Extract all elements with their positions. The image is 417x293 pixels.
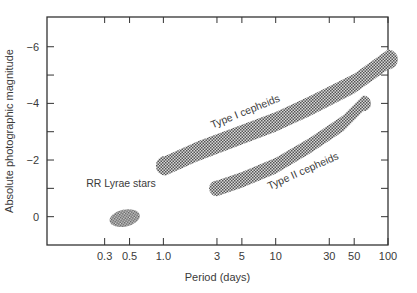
annotation-label: RR Lyrae stars [86,177,156,189]
chart-area: 0.30.51.035103050100 −6−4−20 Type I ceph… [0,0,417,293]
x-tick-label: 3 [214,250,220,262]
y-tick-label: −2 [26,154,39,166]
x-tick-label: 50 [348,250,360,262]
x-tick-label: 5 [239,250,245,262]
y-axis-title: Absolute photographic magnitude [3,49,15,213]
y-tick-label: −4 [26,97,39,109]
y-tick-label: 0 [33,211,39,223]
x-tick-label: 30 [323,250,335,262]
x-tick-label: 1.0 [156,250,171,262]
x-axis-title: Period (days) [185,271,250,283]
x-tick-label: 100 [379,250,397,262]
data-bands [108,50,398,230]
rr-lyrae-stars-region [108,207,142,230]
x-tick-label: 10 [270,250,282,262]
x-tick-label: 0.5 [122,250,137,262]
x-tick-label: 0.3 [97,250,112,262]
y-tick-label: −6 [26,41,39,53]
